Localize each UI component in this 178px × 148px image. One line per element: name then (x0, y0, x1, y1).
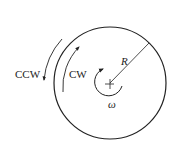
rotating-disk-diagram: CCW CW R ω (0, 0, 178, 148)
ccw-label: CCW (15, 68, 41, 80)
cw-label: CW (69, 68, 87, 80)
radius-label: R (120, 55, 128, 67)
radius-line (110, 43, 149, 83)
omega-label: ω (108, 98, 116, 110)
omega-rotation-arrow-icon (95, 69, 122, 96)
